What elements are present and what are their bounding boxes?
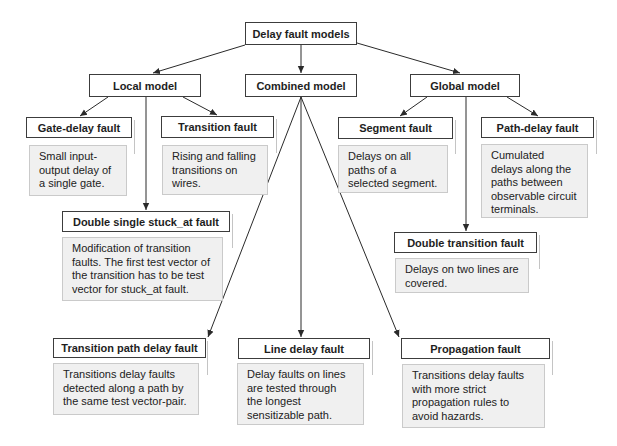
propagation-fault-node: Propagation fault — [401, 338, 550, 359]
description-line: terminals. — [491, 203, 581, 217]
description-line: Modification of transition — [72, 242, 216, 256]
shadow-line — [372, 341, 373, 375]
shadow-line — [455, 120, 456, 154]
root-node: Delay fault models — [245, 22, 357, 45]
description-line: Delays on two lines are — [405, 263, 522, 277]
description-line: paths between — [491, 176, 581, 190]
description-line: delays along the — [491, 163, 581, 177]
gate-delay-fault-description: Small input- output delay of a single ga… — [29, 145, 127, 196]
description-line: are tested through — [247, 382, 357, 396]
double-single-stuck-at-fault-node: Double single stuck_at fault — [62, 211, 230, 232]
line-delay-fault-node: Line delay fault — [238, 338, 370, 359]
edge-local-to-transition — [183, 97, 217, 115]
description-line: transitions on — [172, 164, 261, 178]
description-line: Small input- — [39, 150, 120, 164]
description-line: vector for stuck_at fault. — [72, 283, 216, 297]
description-line: Cumulated — [491, 149, 581, 163]
description-line: Delay faults on lines — [247, 368, 357, 382]
double-transition-fault-description: Delays on two lines are covered. — [395, 258, 529, 293]
shadow-line — [276, 119, 277, 153]
description-line: covered. — [405, 277, 522, 291]
description-line: Rising and falling — [172, 150, 261, 164]
propagation-fault-description: Transitions delay faults with more stric… — [402, 364, 545, 428]
shadow-line — [552, 341, 553, 375]
description-line: Transitions delay faults — [63, 368, 192, 382]
path-delay-fault-description: Cumulated delays along the paths between… — [481, 144, 588, 218]
transition-path-delay-fault-description: Transitions delay faults detected along … — [53, 363, 199, 415]
shadow-line — [539, 235, 540, 269]
description-line: paths of a — [348, 164, 441, 178]
line-delay-fault-description: Delay faults on lines are tested through… — [237, 363, 364, 425]
transition-fault-node: Transition fault — [161, 116, 274, 138]
shadow-line — [134, 120, 135, 154]
double-transition-fault-node: Double transition fault — [394, 232, 537, 253]
description-line: sensitizable path. — [247, 409, 357, 423]
description-line: detected along a path by — [63, 382, 192, 396]
description-line: Transitions delay faults — [412, 369, 538, 383]
double-single-stuck-at-fault-description: Modification of transition faults. The f… — [62, 237, 223, 301]
description-line: the transition has to be test — [72, 269, 216, 283]
local-model-node: Local model — [89, 74, 201, 97]
shadow-line — [232, 214, 233, 248]
description-line: selected segment. — [348, 177, 441, 191]
path-delay-fault-node: Path-delay fault — [481, 117, 594, 138]
edge-root-to-local — [153, 45, 245, 73]
description-line: propagation rules to — [412, 396, 538, 410]
global-model-node: Global model — [410, 74, 520, 97]
combined-model-node: Combined model — [245, 74, 357, 97]
gate-delay-fault-node: Gate-delay fault — [26, 117, 132, 138]
description-line: Delays on all — [348, 150, 441, 164]
description-line: avoid hazards. — [412, 410, 538, 424]
edge-root-to-global — [357, 43, 460, 73]
description-line: a single gate. — [39, 177, 120, 191]
shadow-line — [596, 120, 597, 154]
description-line: the longest — [247, 395, 357, 409]
description-line: with more strict — [412, 383, 538, 397]
edge-local-to-gate-delay — [80, 97, 108, 116]
edge-global-to-segment — [400, 97, 427, 116]
transition-fault-description: Rising and falling transitions on wires. — [162, 145, 268, 195]
description-line: output delay of — [39, 164, 120, 178]
description-line: the same test vector-pair. — [63, 395, 192, 409]
segment-fault-node: Segment fault — [338, 117, 453, 139]
description-line: faults. The first test vector of — [72, 256, 216, 270]
edge-global-to-path-delay — [507, 97, 538, 116]
transition-path-delay-fault-node: Transition path delay fault — [53, 338, 206, 358]
segment-fault-description: Delays on all paths of a selected segmen… — [338, 145, 448, 193]
description-line: observable circuit — [491, 190, 581, 204]
shadow-line — [207, 341, 208, 375]
description-line: wires. — [172, 177, 261, 191]
delay-fault-models-diagram: Delay fault models Local model Combined … — [0, 0, 617, 446]
